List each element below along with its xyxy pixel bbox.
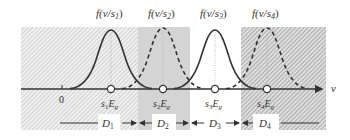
axis-label-v: v — [331, 82, 336, 94]
title-f-s4: f(v/s4) — [252, 7, 279, 21]
title-f-s1: f(v/s1) — [96, 7, 123, 21]
distribution-diagram: 0 v f(v/s1) f(v/s2) f(v/s3) f(v/s4) s1Eg… — [0, 0, 350, 140]
region-d3 — [190, 27, 241, 130]
title-f-s2: f(v/s2) — [148, 7, 175, 21]
zero-label: 0 — [59, 94, 64, 105]
title-f-s3: f(v/s3) — [200, 7, 227, 21]
